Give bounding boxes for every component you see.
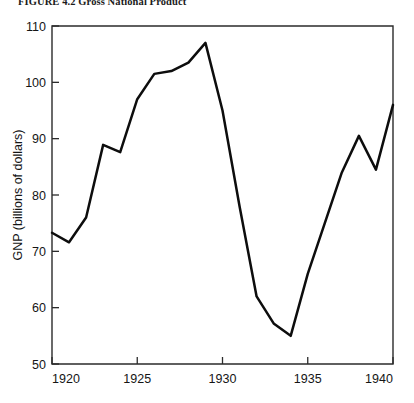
y-tick-label-90: 90 — [32, 132, 46, 146]
x-tick-label-1940: 1940 — [365, 372, 393, 386]
gnp-line-chart: 5060708090100110 19201925193019351940 GN… — [0, 0, 414, 403]
y-tick-label-110: 110 — [26, 20, 46, 34]
y-axis-tick-labels: 5060708090100110 — [25, 20, 46, 372]
y-tick-label-60: 60 — [32, 301, 46, 315]
y-axis-ticks — [52, 26, 59, 364]
x-axis-ticks — [52, 357, 393, 364]
axis-frame — [52, 26, 393, 364]
x-tick-label-1935: 1935 — [294, 372, 322, 386]
gnp-data-line — [52, 43, 393, 336]
x-tick-label-1930: 1930 — [209, 372, 237, 386]
y-tick-label-70: 70 — [32, 245, 46, 259]
y-axis-title: GNP (billions of dollars) — [11, 129, 25, 260]
y-tick-label-80: 80 — [32, 189, 46, 203]
y-tick-label-100: 100 — [25, 76, 46, 90]
chart-canvas: 5060708090100110 19201925193019351940 GN… — [0, 0, 414, 403]
x-tick-label-1925: 1925 — [123, 372, 151, 386]
x-tick-label-1920: 1920 — [52, 372, 80, 386]
figure-root: FIGURE 4.2 Gross National Product 506070… — [0, 0, 414, 403]
x-axis-tick-labels: 19201925193019351940 — [52, 372, 393, 386]
y-tick-label-50: 50 — [32, 358, 46, 372]
